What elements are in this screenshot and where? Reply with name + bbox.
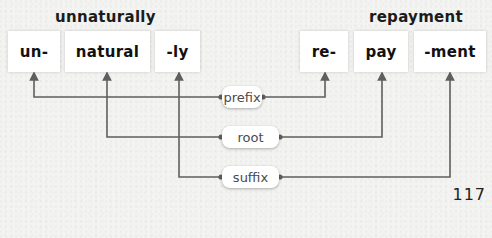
line-ly-suffix xyxy=(179,76,221,177)
pill-label: suffix xyxy=(233,170,268,185)
page-number: 117 xyxy=(452,185,486,204)
part-text: natural xyxy=(76,43,139,61)
part-text: re- xyxy=(312,43,337,61)
part-text: -ly xyxy=(166,43,188,61)
line-prefix-re xyxy=(263,76,325,97)
line-un-prefix xyxy=(34,76,221,97)
word-label-repayment: repayment xyxy=(366,8,466,26)
pill-label: root xyxy=(237,130,263,145)
part-box-prefix-re: re- xyxy=(300,31,348,72)
part-text: un- xyxy=(20,43,48,61)
part-box-root-pay: pay xyxy=(354,31,408,72)
word-label-unnaturally: unnaturally xyxy=(55,8,155,26)
line-natural-root xyxy=(107,76,221,137)
part-text: -ment xyxy=(424,43,475,61)
line-root-pay xyxy=(280,76,382,137)
category-pill-root: root xyxy=(222,126,279,148)
part-box-suffix-ment: -ment xyxy=(414,31,486,72)
category-pill-prefix: prefix xyxy=(222,86,262,108)
part-box-root-natural: natural xyxy=(65,31,150,72)
part-box-suffix-ly: -ly xyxy=(155,31,200,72)
line-suffix-ment xyxy=(280,76,450,177)
pill-label: prefix xyxy=(223,90,260,105)
part-box-prefix-un: un- xyxy=(8,31,60,72)
category-pill-suffix: suffix xyxy=(222,166,279,188)
part-text: pay xyxy=(365,43,396,61)
